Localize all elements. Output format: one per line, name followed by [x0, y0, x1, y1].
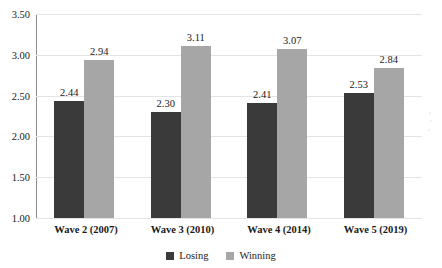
- bar-value-label: 2.84: [380, 54, 398, 65]
- bar-losing[interactable]: [151, 112, 181, 218]
- legend-label: Losing: [179, 250, 208, 261]
- gridline: [36, 218, 422, 219]
- bar-winning[interactable]: [277, 49, 307, 218]
- bar-column: 2.94: [84, 14, 114, 218]
- bar-losing[interactable]: [54, 101, 84, 219]
- bar-group: 2.413.07: [247, 14, 307, 218]
- scan-artifact: [428, 129, 430, 131]
- y-axis-tick-label: 1.00: [12, 213, 30, 224]
- bar-group: 2.303.11: [151, 14, 211, 218]
- bar-losing[interactable]: [247, 103, 277, 218]
- bar-column: 2.53: [344, 14, 374, 218]
- bar-column: 3.07: [277, 14, 307, 218]
- legend-label: Winning: [239, 250, 275, 261]
- bar-groups: 2.442.942.303.112.413.072.532.84: [36, 14, 422, 218]
- legend-swatch-icon: [226, 252, 234, 260]
- legend-swatch-icon: [166, 252, 174, 260]
- bar-winning[interactable]: [84, 60, 114, 218]
- y-axis-tick-label: 2.50: [12, 90, 30, 101]
- bar-value-label: 2.44: [60, 87, 78, 98]
- bar-chart: 3.503.002.502.001.501.00 2.442.942.303.1…: [0, 0, 442, 268]
- x-axis-category-labels: Wave 2 (2007)Wave 3 (2010)Wave 4 (2014)W…: [36, 224, 422, 235]
- bar-value-label: 3.11: [187, 32, 205, 43]
- y-axis-tick-label: 2.00: [12, 131, 30, 142]
- y-axis-tick-label: 1.50: [12, 172, 30, 183]
- bar-value-label: 2.94: [90, 46, 108, 57]
- bar-column: 2.44: [54, 14, 84, 218]
- scan-artifact: [429, 112, 431, 114]
- bar-value-label: 2.53: [350, 79, 368, 90]
- bar-column: 3.11: [181, 14, 211, 218]
- bar-winning[interactable]: [374, 68, 404, 218]
- x-axis-category-label: Wave 2 (2007): [54, 224, 114, 235]
- bar-column: 2.41: [247, 14, 277, 218]
- bar-value-label: 3.07: [283, 35, 301, 46]
- bar-group: 2.532.84: [344, 14, 404, 218]
- bar-column: 2.30: [151, 14, 181, 218]
- y-axis-tick-label: 3.00: [12, 49, 30, 60]
- bar-winning[interactable]: [181, 46, 211, 218]
- chart-legend: LosingWinning: [0, 250, 442, 261]
- bar-value-label: 2.30: [157, 98, 175, 109]
- bar-group: 2.442.94: [54, 14, 114, 218]
- cropped-title-remnant: [0, 0, 442, 6]
- bar-column: 2.84: [374, 14, 404, 218]
- x-axis-category-label: Wave 3 (2010): [151, 224, 211, 235]
- bar-losing[interactable]: [344, 93, 374, 218]
- legend-item-winning[interactable]: Winning: [226, 250, 275, 261]
- x-axis-category-label: Wave 5 (2019): [344, 224, 404, 235]
- bar-value-label: 2.41: [253, 89, 271, 100]
- x-axis-category-label: Wave 4 (2014): [247, 224, 307, 235]
- scan-artifact: [430, 120, 432, 122]
- legend-item-losing[interactable]: Losing: [166, 250, 208, 261]
- y-axis-tick-label: 3.50: [12, 9, 30, 20]
